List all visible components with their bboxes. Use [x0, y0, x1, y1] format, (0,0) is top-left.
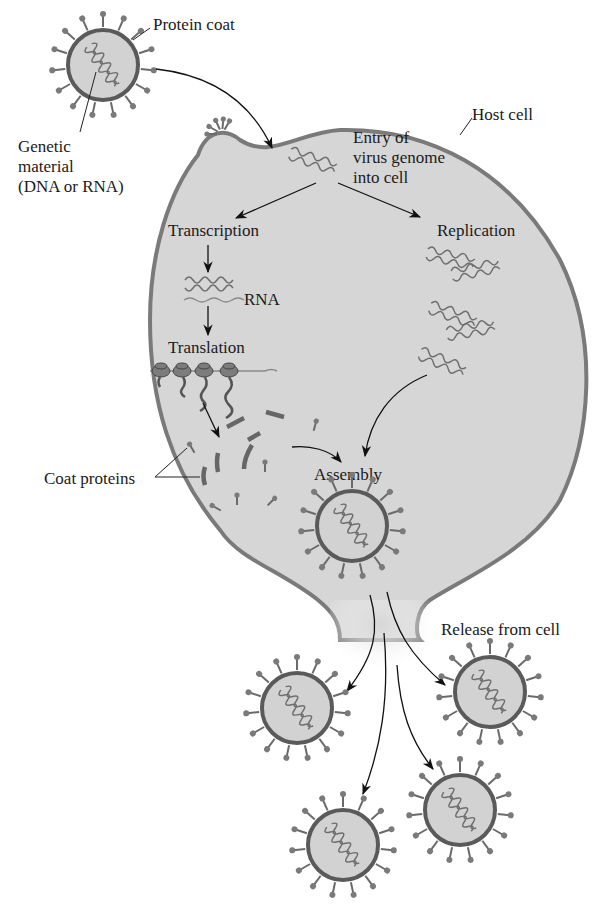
host-cell-leader [460, 118, 472, 135]
label-genetic-material-2: material [18, 157, 74, 176]
label-release: Release from cell [441, 620, 560, 639]
label-entry-1: Entry of [353, 128, 410, 147]
viral-replication-diagram: Protein coat Genetic material (DNA or RN… [0, 0, 593, 906]
label-coat-proteins: Coat proteins [44, 469, 135, 488]
released-virion-3 [406, 756, 514, 863]
incoming-virion [49, 11, 157, 118]
released-virion-2 [436, 638, 544, 745]
label-protein-coat: Protein coat [153, 15, 235, 34]
label-genetic-material-1: Genetic [18, 137, 71, 156]
released-virion-4 [289, 791, 397, 898]
label-translation: Translation [168, 338, 245, 357]
label-transcription: Transcription [168, 221, 259, 240]
release-line-down-right [397, 665, 433, 769]
label-entry-2: virus genome [353, 148, 445, 167]
label-replication: Replication [437, 221, 516, 240]
label-host-cell: Host cell [472, 105, 533, 124]
host-cell [150, 116, 586, 680]
label-rna: RNA [244, 290, 281, 309]
label-entry-3: into cell [353, 168, 409, 187]
label-genetic-material-3: (DNA or RNA) [18, 177, 124, 196]
